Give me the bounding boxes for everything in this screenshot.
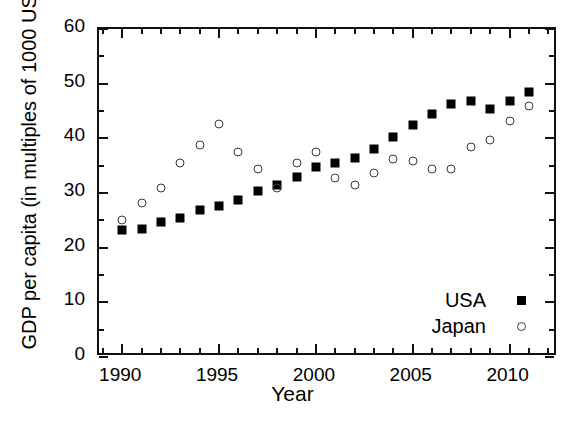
data-point-japan [234, 148, 243, 157]
data-point-japan [253, 164, 262, 173]
x-tick-major [218, 29, 220, 38]
x-tick-minor [179, 29, 181, 34]
data-point-usa [524, 87, 533, 96]
y-tick-minor [549, 165, 554, 167]
y-tick-minor [549, 55, 554, 57]
x-tick-minor [237, 348, 239, 353]
y-tick-major [99, 356, 108, 358]
data-point-japan [137, 198, 146, 207]
y-tick-minor [99, 219, 104, 221]
x-tick-major [121, 29, 123, 38]
x-tick-label: 2010 [486, 364, 528, 386]
data-point-usa [176, 213, 185, 222]
x-tick-minor [373, 348, 375, 353]
data-point-japan [118, 215, 127, 224]
data-point-japan [350, 181, 359, 190]
data-point-japan [273, 183, 282, 192]
x-tick-minor [160, 348, 162, 353]
data-point-japan [505, 117, 514, 126]
data-point-usa [156, 217, 165, 226]
y-tick-major [99, 83, 108, 85]
x-tick-label: 2005 [390, 364, 432, 386]
x-tick-major [315, 344, 317, 353]
x-tick-minor [141, 29, 143, 34]
x-tick-minor [102, 29, 104, 34]
x-tick-minor [431, 348, 433, 353]
y-tick-major [99, 301, 108, 303]
y-tick-label: 50 [0, 70, 85, 92]
x-tick-minor [470, 348, 472, 353]
x-tick-minor [334, 29, 336, 34]
y-tick-major [545, 137, 554, 139]
data-point-usa [118, 226, 127, 235]
data-point-usa [331, 158, 340, 167]
y-tick-major [545, 356, 554, 358]
x-tick-minor [489, 29, 491, 34]
x-tick-minor [160, 29, 162, 34]
data-point-usa [389, 133, 398, 142]
x-tick-minor [547, 348, 549, 353]
y-tick-minor [99, 329, 104, 331]
y-tick-major [99, 192, 108, 194]
data-point-japan [466, 143, 475, 152]
y-tick-major [545, 83, 554, 85]
data-point-usa [505, 96, 514, 105]
y-tick-label: 60 [0, 15, 85, 37]
data-point-usa [466, 96, 475, 105]
x-tick-minor [528, 348, 530, 353]
data-point-usa [447, 100, 456, 109]
data-point-japan [389, 154, 398, 163]
x-tick-minor [489, 348, 491, 353]
x-tick-minor [199, 29, 201, 34]
x-tick-minor [102, 348, 104, 353]
data-point-usa [234, 195, 243, 204]
x-tick-minor [276, 348, 278, 353]
legend-item-usa: USA [432, 287, 533, 313]
x-tick-minor [257, 348, 259, 353]
x-tick-major [412, 29, 414, 38]
x-tick-minor [296, 348, 298, 353]
y-tick-major [545, 192, 554, 194]
y-tick-minor [549, 329, 554, 331]
x-tick-minor [237, 29, 239, 34]
y-tick-label: 10 [0, 288, 85, 310]
x-tick-major [412, 344, 414, 353]
y-tick-major [99, 137, 108, 139]
y-tick-minor [99, 165, 104, 167]
data-point-japan [215, 120, 224, 129]
data-point-usa [428, 109, 437, 118]
y-tick-minor [99, 274, 104, 276]
x-tick-label: 1995 [196, 364, 238, 386]
x-tick-major [121, 344, 123, 353]
x-tick-major [509, 344, 511, 353]
x-tick-minor [528, 29, 530, 34]
x-tick-minor [392, 348, 394, 353]
chart-legend: USA Japan [432, 287, 533, 339]
data-point-japan [524, 101, 533, 110]
y-tick-label: 30 [0, 179, 85, 201]
legend-swatch-japan [510, 322, 532, 331]
y-tick-label: 0 [0, 343, 85, 365]
x-tick-minor [199, 348, 201, 353]
x-tick-major [315, 29, 317, 38]
x-tick-minor [257, 29, 259, 34]
legend-label-japan: Japan [432, 313, 487, 339]
data-point-japan [370, 169, 379, 178]
x-tick-minor [334, 348, 336, 353]
data-point-usa [370, 144, 379, 153]
x-tick-major [509, 29, 511, 38]
plot-area: USA Japan [97, 27, 556, 355]
x-tick-minor [470, 29, 472, 34]
y-tick-major [99, 247, 108, 249]
y-tick-minor [549, 219, 554, 221]
filled-square-icon [517, 296, 526, 305]
y-tick-minor [549, 274, 554, 276]
x-tick-minor [296, 29, 298, 34]
data-point-usa [137, 224, 146, 233]
x-tick-minor [547, 29, 549, 34]
y-tick-label: 40 [0, 124, 85, 146]
data-point-japan [447, 164, 456, 173]
y-tick-major [545, 301, 554, 303]
y-tick-minor [99, 110, 104, 112]
data-point-japan [156, 183, 165, 192]
